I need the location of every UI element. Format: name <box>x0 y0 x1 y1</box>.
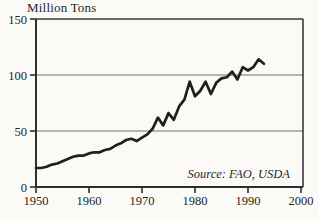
x-tick-label-2000: 2000 <box>289 194 314 208</box>
production-line-chart: 050100150195019601970198019902000 <box>0 0 318 220</box>
x-tick-label-1980: 1980 <box>183 194 208 208</box>
y-tick-label-100: 100 <box>8 69 27 83</box>
x-tick-label-1960: 1960 <box>77 194 102 208</box>
y-tick-label-50: 50 <box>15 125 28 139</box>
y-tick-label-150: 150 <box>8 13 27 27</box>
chart-page: Million Tons 050100150195019601970198019… <box>0 0 318 220</box>
x-tick-label-1970: 1970 <box>130 194 155 208</box>
x-tick-label-1990: 1990 <box>236 194 261 208</box>
source-note: Source: FAO, USDA <box>150 167 290 182</box>
y-tick-label-0: 0 <box>21 181 27 195</box>
data-line-world-production-million-tons <box>36 59 264 168</box>
x-tick-label-1950: 1950 <box>24 194 49 208</box>
